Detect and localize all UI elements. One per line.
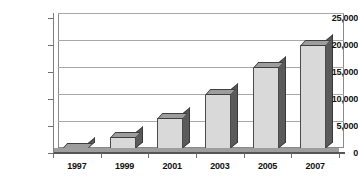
y-axis-tick-mark xyxy=(48,99,53,100)
x-axis-tick-label: 2003 xyxy=(210,161,229,171)
x-axis-tick-mark xyxy=(244,153,245,158)
x-axis-tick-label: 2007 xyxy=(306,161,325,171)
y-axis-tick-mark xyxy=(48,126,53,127)
y-axis-tick-label: 0 xyxy=(310,148,358,158)
x-axis-tick-mark xyxy=(339,153,340,158)
y-axis-tick-label: 15,000 xyxy=(310,67,358,77)
gridline xyxy=(58,13,344,14)
bar-front-face xyxy=(253,67,279,153)
y-axis-tick-label: 5,000 xyxy=(310,121,358,131)
bar-front-face xyxy=(205,94,231,153)
y-axis-tick-label: 20,000 xyxy=(310,40,358,50)
y-axis-line xyxy=(53,13,54,153)
x-axis-tick-label: 2005 xyxy=(258,161,277,171)
bar-top-face xyxy=(110,132,141,138)
x-axis-tick-label: 1997 xyxy=(67,161,86,171)
bar xyxy=(205,94,231,153)
bar-top-face xyxy=(253,62,284,68)
y-axis-tick-mark xyxy=(48,18,53,19)
y-axis-tick-label: 10,000 xyxy=(310,94,358,104)
plot-area xyxy=(53,18,339,153)
bar-chart: 05,00010,00015,00020,00025,000 199719992… xyxy=(0,0,358,183)
x-axis-tick-mark xyxy=(291,153,292,158)
x-axis-line xyxy=(53,152,345,154)
y-axis-tick-label: 25,000 xyxy=(310,13,358,23)
x-axis-tick-label: 1999 xyxy=(115,161,134,171)
x-axis-tick-mark xyxy=(196,153,197,158)
x-axis-tick-mark xyxy=(53,153,54,158)
x-axis-tick-mark xyxy=(101,153,102,158)
gridline xyxy=(58,40,344,41)
bar-top-face xyxy=(205,89,236,95)
bar-top-face xyxy=(157,113,188,119)
bar xyxy=(253,67,279,153)
y-axis-tick-mark xyxy=(48,72,53,73)
bar-side-face xyxy=(279,56,286,148)
chart-front-wall xyxy=(53,18,339,153)
x-axis-tick-label: 2001 xyxy=(163,161,182,171)
y-axis-tick-mark xyxy=(48,45,53,46)
x-axis-tick-mark xyxy=(148,153,149,158)
